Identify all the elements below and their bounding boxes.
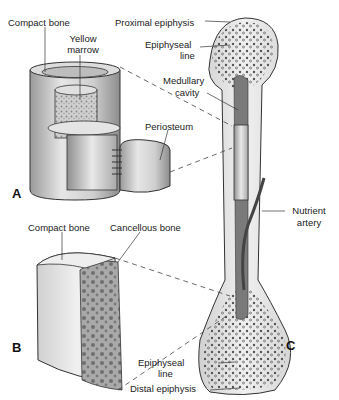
long-bone-anatomy-diagram: Compact bone Yellow marrow Periosteum Co… [0,0,339,400]
label-medullary-cavity-2: cavity [175,87,199,98]
label-nutrient-artery-2: artery [285,217,333,228]
panel-label-c: C [286,338,295,353]
label-yellow-marrow-line1: Yellow [62,33,104,44]
panel-label-b: B [12,340,21,355]
panel-c-long-bone [199,18,291,395]
label-epiphyseal-line-top-2: line [180,50,195,61]
label-distal-epiphysis: Distal epiphysis [130,383,196,394]
label-epiphyseal-line-bottom-1: Epiphyseal [138,357,184,368]
label-compact-bone-b: Compact bone [28,222,90,233]
label-compact-bone-a: Compact bone [8,17,70,28]
label-epiphyseal-line-top-1: Epiphyseal [145,39,191,50]
label-medullary-cavity-1: Medullary [163,75,204,86]
panel-label-a: A [12,186,21,201]
label-proximal-epiphysis: Proximal epiphysis [115,17,194,28]
label-epiphyseal-line-bottom-2: line [158,368,173,379]
panel-b-block [37,253,122,390]
label-nutrient-artery-1: Nutrient [285,205,333,216]
label-periosteum: Periosteum [145,121,193,132]
label-yellow-marrow-line2: marrow [62,44,104,55]
label-cancellous-bone: Cancellous bone [110,222,181,233]
